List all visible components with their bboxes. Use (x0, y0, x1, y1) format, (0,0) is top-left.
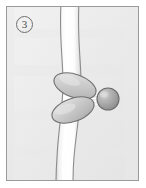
figure-root: 3 (0, 0, 146, 188)
attached-sphere (97, 88, 119, 110)
panel-frame: 3 (6, 6, 139, 181)
panel-illustration (7, 7, 138, 180)
panel-number-badge: 3 (16, 16, 33, 33)
panel-number-label: 3 (22, 19, 28, 30)
